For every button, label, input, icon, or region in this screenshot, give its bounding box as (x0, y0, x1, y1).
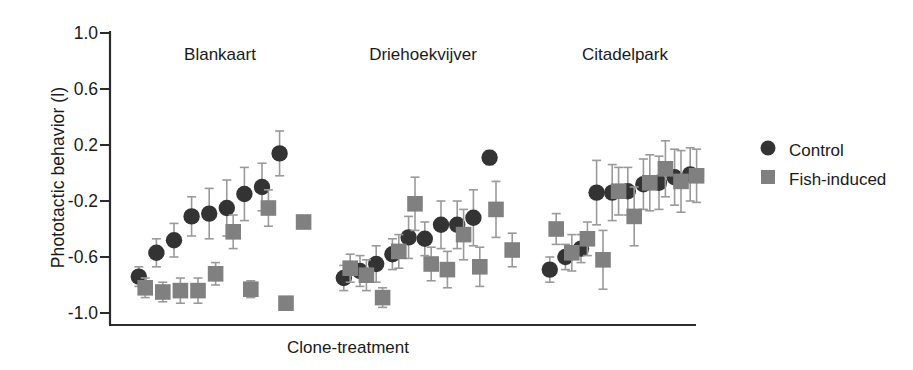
data-point (236, 167, 252, 220)
marker-square-fish-induced (173, 283, 189, 299)
marker-square-fish-induced (155, 284, 171, 300)
marker-circle-control (219, 200, 235, 216)
data-point (673, 151, 689, 213)
axes-lines (100, 31, 696, 325)
marker-square-fish-induced (296, 214, 312, 230)
data-point (642, 155, 658, 211)
marker-circle-control (417, 231, 433, 247)
marker-circle-control (433, 217, 449, 233)
data-point (183, 197, 199, 236)
marker-circle-control (236, 186, 252, 202)
marker-square-fish-induced (488, 202, 504, 218)
marker-square-fish-induced (595, 252, 611, 268)
marker-circle-control (271, 145, 287, 161)
marker-square-fish-induced (642, 175, 658, 191)
data-point (542, 257, 558, 282)
marker-circle-control (481, 149, 497, 165)
marker-square-fish-induced (440, 262, 456, 278)
data-point (375, 288, 391, 308)
legend-marker-circle (761, 141, 776, 156)
data-point (440, 251, 456, 287)
data-point (166, 223, 182, 257)
data-point (155, 282, 171, 302)
data-points-layer (131, 131, 705, 311)
data-point (611, 167, 627, 215)
chart-figure: Phototactic behavior (l) Clone-treatment… (0, 0, 913, 370)
marker-square-fish-induced (548, 221, 564, 237)
data-point (271, 131, 287, 176)
marker-square-fish-induced (504, 242, 520, 258)
data-point (261, 190, 277, 226)
data-point (208, 263, 224, 285)
data-point (595, 230, 611, 289)
marker-square-fish-induced (673, 174, 689, 190)
marker-square-fish-induced (342, 260, 358, 276)
data-point (481, 149, 497, 165)
marker-square-fish-induced (391, 244, 407, 260)
marker-circle-control (166, 232, 182, 248)
data-point (243, 281, 259, 298)
plot-area (0, 0, 913, 370)
marker-circle-control (400, 229, 416, 245)
marker-circle-control (542, 261, 558, 277)
marker-square-fish-induced (456, 227, 472, 243)
data-point (148, 239, 164, 267)
marker-square-fish-induced (137, 280, 153, 296)
marker-square-fish-induced (611, 183, 627, 199)
marker-square-fish-induced (658, 161, 674, 177)
data-point (689, 149, 705, 202)
marker-square-fish-induced (190, 283, 206, 299)
legend-marker-square (761, 170, 775, 184)
marker-square-fish-induced (407, 196, 423, 212)
data-point (423, 247, 439, 281)
data-point (225, 215, 241, 249)
data-point (173, 278, 189, 303)
marker-circle-control (183, 208, 199, 224)
marker-square-fish-induced (278, 295, 294, 311)
marker-square-fish-induced (359, 267, 375, 283)
data-point (548, 214, 564, 245)
marker-circle-control (201, 205, 217, 221)
marker-square-fish-induced (208, 266, 224, 282)
data-point (588, 160, 604, 224)
data-point (488, 181, 504, 237)
data-point (296, 214, 312, 230)
marker-square-fish-induced (261, 200, 277, 216)
marker-square-fish-induced (580, 231, 596, 247)
marker-square-fish-induced (225, 224, 241, 240)
legend-markers (761, 141, 776, 185)
data-point (201, 188, 217, 238)
marker-square-fish-induced (626, 209, 642, 225)
marker-square-fish-induced (689, 168, 705, 184)
data-point (190, 278, 206, 303)
data-point (433, 201, 449, 249)
marker-square-fish-induced (472, 259, 488, 275)
marker-circle-control (588, 184, 604, 200)
marker-square-fish-induced (375, 290, 391, 306)
marker-circle-control (465, 210, 481, 226)
data-point (564, 235, 580, 271)
marker-square-fish-induced (423, 256, 439, 272)
data-point (278, 295, 294, 311)
marker-circle-control (148, 245, 164, 261)
data-point (504, 233, 520, 267)
data-point (472, 247, 488, 286)
data-point (137, 278, 153, 298)
marker-square-fish-induced (243, 281, 259, 297)
marker-square-fish-induced (564, 245, 580, 261)
